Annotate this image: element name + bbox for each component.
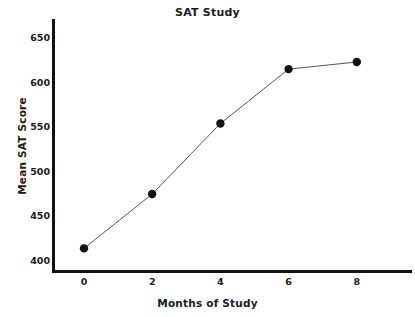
data-point <box>353 58 361 66</box>
data-point <box>80 244 88 252</box>
data-point <box>148 190 156 198</box>
data-point <box>216 119 224 127</box>
chart-container: SAT Study Mean SAT Score Months of Study… <box>0 0 415 317</box>
data-point-markers <box>80 58 361 253</box>
data-point <box>284 65 292 73</box>
plot-area <box>0 0 415 317</box>
data-series-line <box>84 62 357 248</box>
